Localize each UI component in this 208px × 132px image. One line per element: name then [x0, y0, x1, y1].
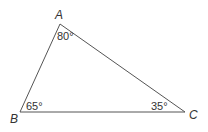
angle-label-a: 80° — [57, 30, 74, 42]
vertex-label-c: C — [189, 108, 198, 122]
triangle-diagram: A B C 80° 65° 35° — [0, 0, 208, 132]
vertex-label-a: A — [54, 8, 63, 22]
angle-label-c: 35° — [151, 100, 168, 112]
vertex-label-b: B — [10, 112, 18, 126]
triangle-abc — [20, 24, 185, 112]
angle-label-b: 65° — [26, 100, 43, 112]
